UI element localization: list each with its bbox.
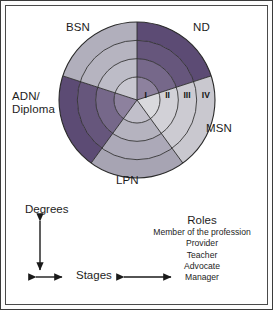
roles-legend: Roles Member of the professionProviderTe… <box>138 214 266 284</box>
sector-label-nd: ND <box>193 21 210 34</box>
roles-list: Member of the professionProviderTeacherA… <box>138 227 266 284</box>
sector-label-bsn: BSN <box>66 21 90 34</box>
role-item: Teacher <box>138 250 266 261</box>
stage-numeral-ii: II <box>165 90 170 100</box>
roles-title: Roles <box>138 214 266 226</box>
role-item: Manager <box>138 272 266 283</box>
degrees-axis-label: Degrees <box>25 203 68 215</box>
sector-label-msn: MSN <box>206 122 232 135</box>
role-item: Provider <box>138 238 266 249</box>
legend-area: Degrees Stages Roles Member of the profe… <box>6 196 269 306</box>
role-item: Advocate <box>138 261 266 272</box>
wheel-diagram: BSN ND ADN/ Diploma MSN LPN IIIIIIIV <box>6 6 269 196</box>
stages-axis-label: Stages <box>76 269 112 281</box>
sector-label-adn-diploma: ADN/ Diploma <box>12 90 55 116</box>
sector-label-lpn: LPN <box>116 174 139 187</box>
stage-numeral-i: I <box>145 90 147 100</box>
role-item: Member of the profession <box>138 227 266 238</box>
stage-numeral-iv: IV <box>202 90 210 100</box>
figure-frame: BSN ND ADN/ Diploma MSN LPN IIIIIIIV <box>0 0 273 310</box>
figure-inner-border: BSN ND ADN/ Diploma MSN LPN IIIIIIIV <box>5 5 268 305</box>
stage-numeral-iii: III <box>184 90 191 100</box>
